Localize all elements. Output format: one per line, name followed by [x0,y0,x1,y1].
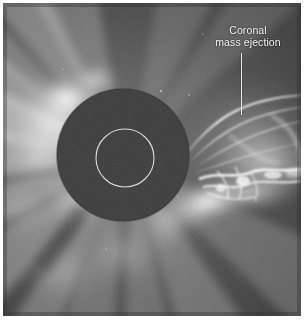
coronagraph-image [3,3,301,316]
coronal-mass-ejection-figure: Coronal mass ejection [0,0,306,324]
film-grain [3,3,301,316]
cme-leader-line [241,53,242,115]
coronagraph-canvas [3,3,301,316]
